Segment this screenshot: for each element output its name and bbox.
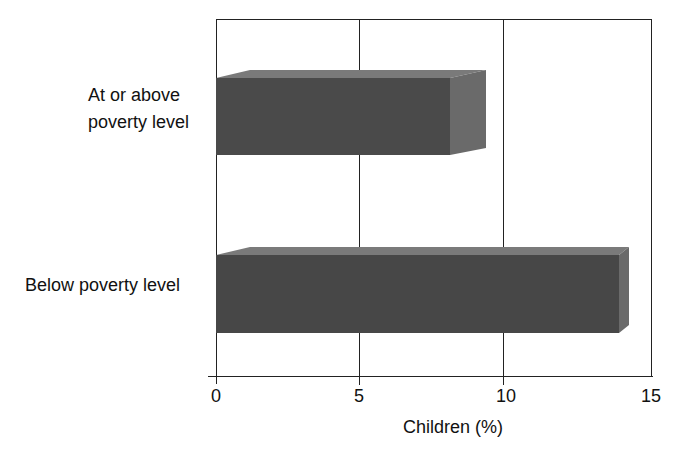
x-tick-label-15: 15 — [641, 386, 661, 407]
category-label-line: At or above — [88, 82, 189, 109]
x-tick-label-0: 0 — [211, 386, 221, 407]
category-label-line: poverty level — [88, 109, 189, 136]
x-axis-title: Children (%) — [403, 417, 503, 438]
x-tick-label-10: 10 — [496, 386, 516, 407]
x-tick-label-5: 5 — [354, 386, 364, 407]
category-label-below: Below poverty level — [25, 272, 180, 299]
bar-at-or-above-poverty — [0, 0, 677, 460]
category-label-at-or-above: At or above poverty level — [88, 82, 189, 136]
